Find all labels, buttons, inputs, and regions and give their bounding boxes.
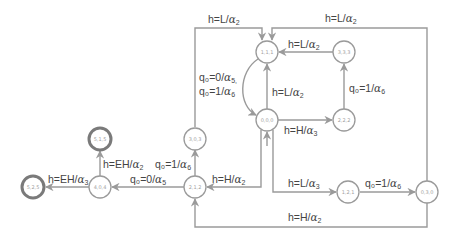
label-404-to-525: h=EH/α3 [48,173,89,186]
label-404-to-515: h=EH/α2 [103,158,144,171]
label-111-to-000-line1: q₀=0/α5, [199,71,237,84]
state-transition-diagram: 1,1,1 3,3,3 0,0,0 2,2,2 3,0,3 2,1,2 4,0,… [0,0,456,241]
label-212-to-303: q₀=1/α6 [155,158,191,171]
label-030-to-212: h=H/α2 [288,211,322,224]
label-000-to-212: h=H/α2 [212,173,246,186]
node-525-final: 5,2,5 [22,176,44,198]
label-111-to-000-line2: q₀=1/α6 [199,85,235,98]
label-000-to-111: h=L/α2 [272,86,304,99]
label-222-to-333: q₀=1/α6 [349,82,385,95]
svg-text:2,1,2: 2,1,2 [189,184,202,190]
svg-text:1,2,1: 1,2,1 [342,189,355,195]
svg-text:5,2,5: 5,2,5 [27,184,40,190]
label-333-to-111: h=L/α2 [288,38,320,51]
label-000-to-222: h=H/α3 [284,124,318,137]
node-515-final: 5,1,5 [89,128,111,150]
svg-text:3,0,3: 3,0,3 [189,136,202,142]
svg-text:0,3,0: 0,3,0 [421,189,434,195]
edge-111-to-000-curve [243,59,258,115]
svg-text:5,1,5: 5,1,5 [94,136,107,142]
svg-text:1,1,1: 1,1,1 [261,49,274,55]
node-121: 1,2,1 [337,181,359,203]
label-212-to-404: q₀=0/α5 [130,173,166,186]
label-121-to-030: q₀=1/α6 [365,177,401,190]
node-030: 0,3,0 [416,181,438,203]
node-222: 2,2,2 [333,109,355,131]
node-212: 2,1,2 [184,176,206,198]
svg-text:4,0,4: 4,0,4 [94,184,107,190]
node-404: 4,0,4 [89,176,111,198]
label-030-to-111: h=L/α2 [325,12,357,25]
svg-text:2,2,2: 2,2,2 [338,117,351,123]
node-000: 0,0,0 [256,109,278,131]
node-333: 3,3,3 [333,41,355,63]
node-111: 1,1,1 [256,41,278,63]
node-303: 3,0,3 [184,128,206,150]
svg-text:3,3,3: 3,3,3 [338,49,351,55]
label-000-to-121: h=L/α3 [288,177,320,190]
svg-text:0,0,0: 0,0,0 [261,117,274,123]
label-303-to-111: h=L/α2 [208,13,240,26]
